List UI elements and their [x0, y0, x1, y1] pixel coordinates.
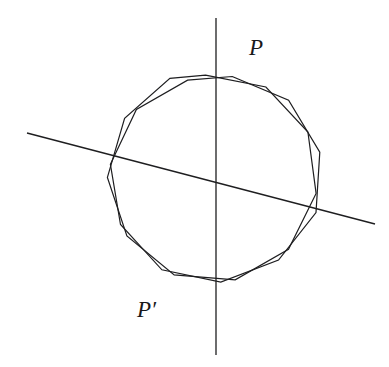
polygon-rotation-diagram [0, 0, 389, 367]
figure-canvas: P P′ [0, 0, 389, 367]
label-point-p-prime: P′ [137, 298, 156, 321]
figure-background [0, 0, 389, 367]
label-point-p: P [249, 36, 263, 59]
